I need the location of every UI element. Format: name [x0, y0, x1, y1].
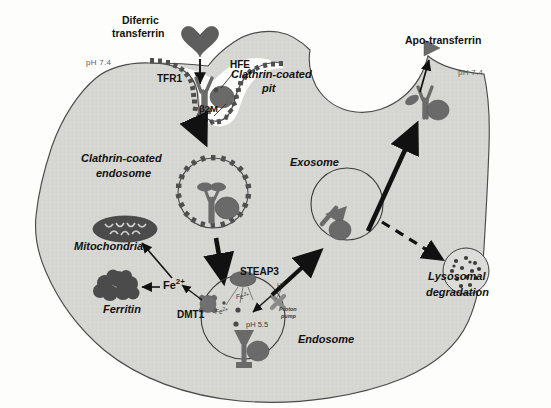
proton-pump-label-line1: Proton	[279, 306, 297, 312]
fe2-endosome-label: Fe2+	[215, 307, 228, 315]
diferric-transferrin-molecule	[181, 27, 218, 58]
proton-sup: +	[282, 281, 285, 286]
fe2-cytosol-sup: 2+	[176, 277, 185, 286]
mitochondria	[93, 216, 157, 242]
fe2-cytosol-base: Fe	[163, 279, 176, 291]
endosome-label: Endosome	[298, 333, 354, 345]
iron-dot	[222, 301, 225, 304]
clathrin-coated-endosome-label-line2: endosome	[96, 167, 151, 179]
fe3-endosome-base: Fe	[236, 293, 244, 300]
clathrin-coated-pit-label-line2: pit	[262, 82, 275, 94]
proton-label: H+	[277, 281, 284, 289]
ph-label-outer-left: pH 7.4	[86, 58, 111, 67]
proton-pump-label-line2: pump	[281, 313, 296, 319]
figure-canvas: Diferric transferrin HFE TFR1 β2M Clathr…	[0, 0, 551, 408]
clathrin-coated-pit-label-line1: Clathrin-coated	[231, 68, 312, 80]
iron-dot	[233, 321, 238, 326]
dmt1-label: DMT1	[177, 309, 204, 320]
tfr1-label: TFR1	[157, 73, 182, 84]
iron-dot	[235, 307, 240, 312]
b2m-label: β2M	[199, 103, 218, 114]
lysosomal-degradation-label-line1: Lysosomal	[428, 270, 485, 282]
fe2-cytosol-label: Fe2+	[163, 277, 185, 291]
mitochondria-label: Mitochondria	[74, 240, 143, 252]
clathrin-coated-endosome-label-line1: Clathrin-coated	[81, 152, 162, 164]
ph-label-outer-right: pH 7.4	[458, 68, 483, 77]
diferric-transferrin-label-line2: transferrin	[112, 27, 165, 39]
pathway-diagram-svg	[0, 0, 551, 408]
lysosomal-degradation-label-line2: degradation	[426, 286, 489, 298]
diferric-transferrin-label-line1: Diferric	[122, 14, 159, 26]
steap3-label: STEAP3	[240, 266, 279, 277]
apo-transferrin-label: Apo-transferrin	[405, 34, 481, 46]
ph-label-endosome: pH 5.5	[246, 320, 268, 329]
fe3-endosome-sup: 3+	[244, 292, 249, 297]
ferritin-label: Ferritin	[103, 303, 141, 315]
exosome-label: Exosome	[290, 156, 339, 168]
mitochondria-body	[93, 216, 157, 242]
fe2-endosome-sup: 2+	[223, 307, 228, 312]
fe3-endosome-label: Fe3+	[236, 292, 249, 300]
fe2-endosome-base: Fe	[215, 308, 223, 315]
